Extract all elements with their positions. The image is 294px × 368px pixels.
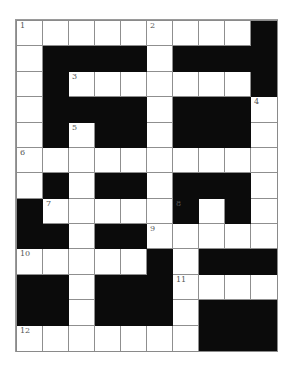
crossword-cell[interactable] (69, 148, 95, 173)
crossword-cell[interactable] (173, 224, 199, 249)
crossword-cell[interactable] (147, 72, 173, 97)
crossword-cell[interactable] (173, 249, 199, 274)
crossword-cell[interactable]: 2 (147, 21, 173, 46)
crossword-block (251, 21, 277, 46)
crossword-cell[interactable] (43, 21, 69, 46)
crossword-cell[interactable]: 12 (17, 326, 43, 351)
crossword-cell[interactable] (251, 275, 277, 300)
crossword-cell[interactable]: 6 (17, 148, 43, 173)
crossword-cell[interactable] (199, 199, 225, 224)
crossword-cell[interactable] (121, 326, 147, 351)
crossword-cell[interactable] (43, 148, 69, 173)
crossword-cell[interactable] (69, 173, 95, 198)
crossword-cell[interactable]: 10 (17, 249, 43, 274)
crossword-block (199, 249, 225, 274)
crossword-cell[interactable] (147, 123, 173, 148)
crossword-block (95, 224, 121, 249)
crossword-cell[interactable]: 11 (173, 275, 199, 300)
crossword-block (147, 249, 173, 274)
crossword-cell[interactable]: 7 (43, 199, 69, 224)
crossword-cell[interactable] (199, 21, 225, 46)
crossword-cell[interactable] (69, 300, 95, 325)
crossword-cell[interactable] (121, 148, 147, 173)
crossword-cell[interactable] (251, 199, 277, 224)
crossword-block (69, 97, 95, 122)
crossword-cell[interactable] (17, 97, 43, 122)
crossword-cell[interactable]: 1 (17, 21, 43, 46)
crossword-cell[interactable] (225, 224, 251, 249)
crossword-block (43, 173, 69, 198)
crossword-cell[interactable] (173, 148, 199, 173)
crossword-cell[interactable] (225, 72, 251, 97)
crossword-block (17, 199, 43, 224)
crossword-cell[interactable] (121, 249, 147, 274)
crossword-cell[interactable] (147, 199, 173, 224)
crossword-block (199, 326, 225, 351)
crossword-cell[interactable] (199, 72, 225, 97)
crossword-cell[interactable] (69, 21, 95, 46)
crossword-cell[interactable] (95, 148, 121, 173)
crossword-cell[interactable] (17, 46, 43, 71)
crossword-cell[interactable] (147, 97, 173, 122)
crossword-cell[interactable] (225, 21, 251, 46)
crossword-cell[interactable] (121, 199, 147, 224)
crossword-cell[interactable] (95, 21, 121, 46)
crossword-cell[interactable] (251, 123, 277, 148)
crossword-block (43, 72, 69, 97)
crossword-cell[interactable] (225, 148, 251, 173)
crossword-cell[interactable] (199, 275, 225, 300)
crossword-cell[interactable] (17, 72, 43, 97)
crossword-block (251, 326, 277, 351)
crossword-cell[interactable] (69, 249, 95, 274)
clue-number: 11 (176, 276, 186, 284)
crossword-block (199, 97, 225, 122)
crossword-cell[interactable] (251, 173, 277, 198)
crossword-block (17, 224, 43, 249)
crossword-cell[interactable] (43, 326, 69, 351)
crossword-cell[interactable] (69, 224, 95, 249)
crossword-block (43, 224, 69, 249)
crossword-cell[interactable]: 9 (147, 224, 173, 249)
crossword-cell[interactable] (173, 21, 199, 46)
crossword-cell[interactable] (251, 148, 277, 173)
crossword-block (43, 123, 69, 148)
crossword-cell[interactable] (69, 199, 95, 224)
clue-number: 9 (150, 225, 155, 233)
crossword-cell[interactable] (147, 148, 173, 173)
crossword-cell[interactable]: 5 (69, 123, 95, 148)
crossword-block (225, 97, 251, 122)
crossword-cell[interactable] (147, 46, 173, 71)
crossword-cell[interactable] (251, 224, 277, 249)
crossword-cell[interactable] (69, 275, 95, 300)
crossword-block (121, 46, 147, 71)
crossword-block (43, 46, 69, 71)
clue-number: 4 (254, 98, 259, 106)
crossword-block: 8 (173, 199, 199, 224)
crossword-cell[interactable] (199, 148, 225, 173)
crossword-block (251, 249, 277, 274)
crossword-cell[interactable] (173, 326, 199, 351)
crossword-cell[interactable] (173, 72, 199, 97)
crossword-cell[interactable] (17, 173, 43, 198)
crossword-cell[interactable] (17, 123, 43, 148)
crossword-block (225, 199, 251, 224)
crossword-cell[interactable] (43, 249, 69, 274)
crossword-cell[interactable] (199, 224, 225, 249)
crossword-block (173, 173, 199, 198)
crossword-cell[interactable]: 3 (69, 72, 95, 97)
crossword-cell[interactable] (121, 72, 147, 97)
crossword-cell[interactable] (225, 275, 251, 300)
crossword-cell[interactable]: 4 (251, 97, 277, 122)
crossword-cell[interactable] (173, 300, 199, 325)
crossword-cell[interactable] (95, 249, 121, 274)
crossword-cell[interactable] (147, 173, 173, 198)
clue-number: 8 (176, 200, 181, 208)
crossword-cell[interactable] (95, 72, 121, 97)
crossword-block (225, 300, 251, 325)
crossword-cell[interactable] (95, 326, 121, 351)
crossword-cell[interactable] (121, 21, 147, 46)
crossword-block (121, 275, 147, 300)
crossword-cell[interactable] (147, 326, 173, 351)
crossword-cell[interactable] (95, 199, 121, 224)
crossword-cell[interactable] (69, 326, 95, 351)
